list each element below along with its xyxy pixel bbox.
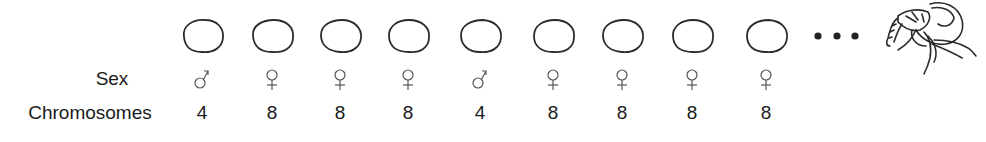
egg-outline-icon	[744, 17, 790, 55]
sex-symbol	[664, 68, 720, 92]
chromosome-count: 8	[525, 102, 581, 124]
female-symbol-icon	[685, 68, 699, 92]
male-symbol-icon	[472, 68, 488, 90]
egg-outline-icon	[531, 17, 577, 55]
female-symbol-icon	[759, 68, 773, 92]
female-symbol-icon	[401, 68, 415, 92]
egg-column: 4	[174, 0, 230, 142]
egg-column: 8	[738, 0, 794, 142]
sex-symbol	[594, 68, 650, 92]
egg-outline-icon	[386, 17, 432, 55]
sex-symbol	[452, 68, 508, 92]
sex-symbol	[738, 68, 794, 92]
egg-column: 8	[664, 0, 720, 142]
egg-column: 8	[312, 0, 368, 142]
sex-symbol	[380, 68, 436, 92]
egg-column: 4	[452, 0, 508, 142]
egg-column: 8	[525, 0, 581, 142]
chromosome-count: 4	[174, 102, 230, 124]
sex-symbol	[174, 68, 230, 92]
sex-symbol	[244, 68, 300, 92]
chromosome-count: 8	[594, 102, 650, 124]
egg-outline-icon	[458, 17, 504, 55]
chromosome-count: 8	[664, 102, 720, 124]
egg-column: 8	[594, 0, 650, 142]
chromosome-count: 8	[380, 102, 436, 124]
egg-outline-icon	[250, 17, 296, 55]
female-symbol-icon	[546, 68, 560, 92]
egg-outline-icon	[600, 17, 646, 55]
chromosomes-row-label: Chromosomes	[10, 102, 170, 124]
egg-outline-icon	[318, 17, 364, 55]
female-symbol-icon	[333, 68, 347, 92]
female-symbol-icon	[265, 68, 279, 92]
egg-column: 8	[380, 0, 436, 142]
chromosome-count: 8	[738, 102, 794, 124]
chromosome-count: 8	[312, 102, 368, 124]
chromosome-count: 8	[244, 102, 300, 124]
sex-row-label: Sex	[82, 68, 142, 90]
sex-symbol	[312, 68, 368, 92]
mite-drawing-icon	[872, 0, 982, 80]
egg-column: 8	[244, 0, 300, 142]
sex-symbol	[525, 68, 581, 92]
egg-outline-icon	[180, 17, 226, 55]
egg-outline-icon	[670, 17, 716, 55]
female-symbol-icon	[615, 68, 629, 92]
ellipsis-continuation-icon	[812, 30, 862, 42]
male-symbol-icon	[194, 68, 210, 90]
chromosome-count: 4	[452, 102, 508, 124]
